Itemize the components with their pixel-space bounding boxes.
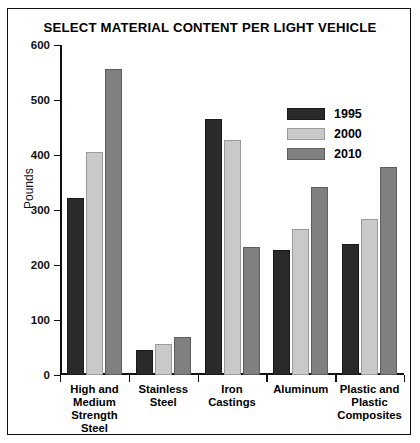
chart-legend: 199520002010 <box>287 105 392 165</box>
bar-group <box>129 45 198 375</box>
bar-group <box>60 45 129 375</box>
bar <box>243 247 260 375</box>
bar-group-bars <box>342 45 397 375</box>
bar <box>86 152 103 375</box>
chart-title: SELECT MATERIAL CONTENT PER LIGHT VEHICL… <box>8 20 412 35</box>
group-separator-tick <box>404 375 405 382</box>
category-label-line: Steel <box>52 422 137 435</box>
bar <box>311 187 328 375</box>
bar-group-bars <box>136 45 191 375</box>
legend-item: 2000 <box>287 125 392 142</box>
y-tick-label: 0 <box>44 369 50 381</box>
bar <box>174 337 191 376</box>
plot-area: 0100200300400500600 High andMediumStreng… <box>60 45 404 375</box>
legend-item: 2010 <box>287 145 392 162</box>
bar <box>205 119 222 375</box>
bar <box>292 229 309 375</box>
bar-group <box>198 45 267 375</box>
bar-group <box>266 45 335 375</box>
legend-label: 2010 <box>334 147 362 161</box>
y-tick-label: 400 <box>31 149 50 161</box>
group-separator-tick <box>129 375 130 382</box>
legend-swatch <box>287 148 325 160</box>
bar-group-bars <box>67 45 122 375</box>
bar <box>224 140 241 375</box>
group-separator-tick <box>335 375 336 382</box>
category-label-line: Plastic and <box>327 383 412 396</box>
bar <box>105 69 122 375</box>
legend-swatch <box>287 128 325 140</box>
bar <box>380 167 397 375</box>
category-label-line: Castings <box>190 396 275 409</box>
group-separator-tick <box>198 375 199 382</box>
bar <box>342 244 359 375</box>
bar-group-bars <box>273 45 328 375</box>
chart-frame: SELECT MATERIAL CONTENT PER LIGHT VEHICL… <box>7 8 411 435</box>
y-tick-label: 300 <box>31 204 50 216</box>
bar-group-bars <box>205 45 260 375</box>
y-tick-label: 200 <box>31 259 50 271</box>
y-tick-label: 500 <box>31 94 50 106</box>
y-axis-title: Pounds <box>22 168 36 209</box>
legend-swatch <box>287 108 325 120</box>
legend-label: 2000 <box>334 127 362 141</box>
bar-group <box>335 45 404 375</box>
bar <box>155 344 172 375</box>
category-label: Plastic andPlasticComposites <box>327 383 412 422</box>
group-separator-tick <box>60 375 61 382</box>
category-label-line: Strength <box>52 409 137 422</box>
y-tick-label: 100 <box>31 314 50 326</box>
bar <box>361 219 378 375</box>
legend-label: 1995 <box>334 107 362 121</box>
category-label-line: Composites <box>327 409 412 422</box>
bar <box>67 198 84 375</box>
bar <box>273 250 290 375</box>
y-tick-label: 600 <box>31 39 50 51</box>
group-separator-tick <box>266 375 267 382</box>
category-label-line: Plastic <box>327 396 412 409</box>
legend-item: 1995 <box>287 105 392 122</box>
bar <box>136 350 153 375</box>
